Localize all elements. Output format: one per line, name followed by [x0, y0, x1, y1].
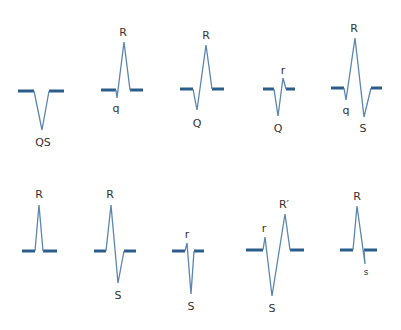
wave-label: R [106, 188, 114, 201]
wave-label: r [281, 64, 286, 77]
waveform-trace [274, 78, 286, 116]
complex-rS: rS [172, 228, 204, 313]
complex-Qr: rQ [263, 64, 295, 135]
complex-RS: RS [94, 188, 136, 302]
waveform-trace [106, 205, 124, 283]
wave-label: S [269, 302, 276, 315]
waveform-trace [34, 91, 49, 130]
wave-label: r [185, 228, 190, 241]
waveform-trace [353, 206, 365, 264]
wave-label: QS [35, 136, 51, 149]
waveform-trace [185, 243, 194, 294]
waveform-trace [116, 42, 130, 98]
waveform-trace [193, 45, 212, 110]
wave-label: R [353, 190, 361, 203]
complexes-group: QSRqRQrQRqSRRSrSrR′SRs [18, 22, 382, 315]
wave-label: Q [193, 117, 202, 130]
complex-QR: RQ [180, 29, 224, 130]
wave-label: q [343, 104, 350, 117]
wave-label: R′ [279, 198, 290, 211]
wave-label: Q [274, 122, 283, 135]
wave-label: s [364, 267, 369, 277]
waveform-trace [263, 214, 290, 296]
complex-Rs: Rs [340, 190, 377, 277]
wave-label: S [360, 122, 367, 135]
wave-label: R [202, 29, 210, 42]
wave-label: R [35, 188, 43, 201]
complex-rSR: rR′S [246, 198, 304, 315]
wave-label: r [262, 222, 267, 235]
complex-qRS: RqS [331, 22, 382, 135]
complex-R: R [22, 188, 57, 251]
complex-qs: QS [18, 91, 64, 149]
wave-label: R [119, 26, 127, 39]
wave-label: S [188, 300, 195, 313]
complex-qR: Rq [101, 26, 143, 115]
wave-label: R [350, 22, 358, 35]
qrs-morphology-diagram: QSRqRQrQRqSRRSrSrR′SRs [0, 0, 401, 330]
wave-label: q [113, 102, 120, 115]
waveform-trace [35, 205, 43, 251]
wave-label: S [115, 289, 122, 302]
